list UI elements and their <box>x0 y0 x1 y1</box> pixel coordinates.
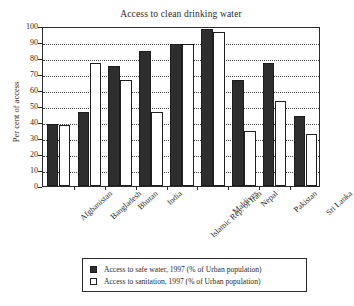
bar-sanitation <box>151 112 163 186</box>
y-axis-tick-labels: 0102030405060708090100 <box>10 27 38 187</box>
bar-safe-water <box>47 124 59 186</box>
bar-sanitation <box>59 125 71 186</box>
bar-group <box>259 28 290 186</box>
legend-label-sanitation: Access to sanitation, 1997 (% of Urban p… <box>104 277 260 286</box>
x-axis-label: Sri Lanka <box>324 189 354 217</box>
x-axis-category-labels: AfghanistanBangladeshBhutanIndiaIslamic … <box>42 189 320 249</box>
bar-safe-water <box>108 66 120 186</box>
bar-sanitation <box>90 63 102 186</box>
x-axis-label: Pakistan <box>292 189 319 214</box>
bar-safe-water <box>170 44 182 186</box>
bar-sanitation <box>244 131 256 186</box>
bar-group <box>197 28 228 186</box>
y-axis-tick-label: 50 <box>12 103 38 111</box>
bar-group <box>290 28 321 186</box>
legend-swatch-sanitation-icon <box>90 278 97 285</box>
bar-group <box>136 28 167 186</box>
bar-safe-water <box>232 80 244 186</box>
bar-safe-water <box>201 29 213 186</box>
y-axis-tick-label: 10 <box>12 167 38 175</box>
bars-layer <box>43 28 319 186</box>
x-axis-label: Afghanistan <box>79 189 115 222</box>
bar-sanitation <box>120 80 132 186</box>
bar-safe-water <box>294 116 306 186</box>
y-axis-tick-label: 20 <box>12 151 38 159</box>
y-axis-tick-label: 80 <box>12 55 38 63</box>
bar-sanitation <box>213 32 225 186</box>
y-axis-tick-label: 90 <box>12 39 38 47</box>
bar-safe-water <box>139 51 151 186</box>
legend-label-safe-water: Access to safe water, 1997 (% of Urban p… <box>104 265 262 274</box>
x-axis-label: Nepal <box>259 189 280 209</box>
bar-group <box>74 28 105 186</box>
bar-sanitation <box>182 44 194 186</box>
legend-swatch-safe-water-icon <box>90 266 97 273</box>
bar-group <box>43 28 74 186</box>
y-axis-tick-label: 0 <box>12 183 38 191</box>
plot-area <box>42 27 320 187</box>
bar-group <box>167 28 198 186</box>
chart-title: Access to clean drinking water <box>42 9 320 19</box>
bar-group <box>228 28 259 186</box>
bar-sanitation <box>306 134 318 186</box>
y-axis-tick-label: 30 <box>12 135 38 143</box>
y-axis-tick-label: 70 <box>12 71 38 79</box>
y-axis-tick-mark <box>38 187 42 188</box>
y-axis-tick-label: 100 <box>12 23 38 31</box>
bar-safe-water <box>78 112 90 186</box>
x-axis-label: India <box>165 189 184 207</box>
bar-sanitation <box>275 101 287 186</box>
legend-item: Access to safe water, 1997 (% of Urban p… <box>90 263 300 275</box>
legend-item: Access to sanitation, 1997 (% of Urban p… <box>90 275 300 287</box>
bar-group <box>105 28 136 186</box>
y-axis-tick-label: 40 <box>12 119 38 127</box>
bar-safe-water <box>263 63 275 186</box>
chart-legend: Access to safe water, 1997 (% of Urban p… <box>82 258 307 292</box>
y-axis-tick-label: 60 <box>12 87 38 95</box>
